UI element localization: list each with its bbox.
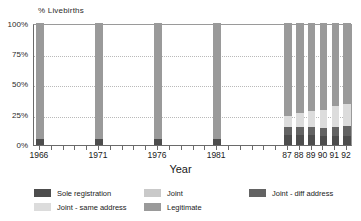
bar-segment-joint-diff-address — [284, 127, 292, 136]
bar-segment-legitimate — [296, 23, 304, 113]
legend-row-2: Joint - same address Legitimate — [34, 200, 354, 214]
bar-segment-joint-diff-address — [332, 127, 340, 137]
bar-segment-legitimate — [95, 23, 103, 139]
legend-label: Joint — [167, 189, 183, 198]
legend-item-joint-diff-address[interactable]: Joint - diff address — [249, 189, 354, 198]
bar-segment-sole-registration — [95, 139, 103, 145]
legend-item-joint[interactable]: Joint — [144, 189, 249, 198]
x-tick-label-1971: 1971 — [81, 150, 115, 160]
bar-segment-sole-registration — [332, 136, 340, 145]
x-tick-1984 — [252, 146, 253, 150]
legend-swatch-icon — [34, 203, 51, 211]
x-tick-label-1966: 1966 — [22, 150, 56, 160]
chart-legend: Sole registration Joint Joint - diff add… — [34, 186, 354, 214]
bar-1976[interactable] — [154, 23, 162, 145]
bar-segment-legitimate — [332, 23, 340, 106]
x-tick-1983 — [240, 146, 241, 150]
bar-90[interactable] — [320, 23, 328, 145]
x-axis-title: Year — [0, 163, 361, 175]
bar-88[interactable] — [296, 23, 304, 145]
bar-89[interactable] — [308, 23, 316, 145]
y-tick-label-0: 0% — [0, 141, 28, 150]
bar-92[interactable] — [343, 23, 351, 145]
x-tick-1985 — [263, 146, 264, 150]
x-tick-label-1976: 1976 — [140, 150, 174, 160]
bar-segment-legitimate — [284, 23, 292, 116]
legend-swatch-icon — [144, 189, 161, 197]
bar-segment-sole-registration — [284, 135, 292, 145]
bar-segment-joint-diff-address — [296, 127, 304, 136]
x-tick-1978 — [181, 146, 182, 150]
x-tick-label-92: 92 — [329, 150, 361, 160]
bar-1971[interactable] — [95, 23, 103, 145]
bar-segment-joint-diff-address — [320, 128, 328, 137]
bar-segment-joint-same-address — [320, 110, 328, 128]
legend-swatch-icon — [249, 189, 266, 197]
bar-segment-joint-diff-address — [343, 126, 351, 137]
bar-segment-legitimate — [320, 23, 328, 110]
legend-label: Joint - same address — [57, 203, 127, 212]
bar-segment-joint-same-address — [296, 113, 304, 126]
bar-segment-joint-same-address — [284, 116, 292, 127]
bar-segment-legitimate — [36, 23, 44, 139]
y-tick-label-25: 25% — [0, 111, 28, 120]
legend-item-legitimate[interactable]: Legitimate — [144, 203, 249, 212]
bar-segment-sole-registration — [320, 136, 328, 145]
y-tick-label-75: 75% — [0, 50, 28, 59]
y-tick-label-100: 100% — [0, 20, 28, 29]
bar-segment-sole-registration — [296, 135, 304, 145]
bar-segment-joint-diff-address — [308, 127, 316, 136]
bar-segment-joint-same-address — [332, 106, 340, 127]
legend-swatch-icon — [144, 203, 161, 211]
bar-segment-legitimate — [213, 23, 221, 139]
legend-label: Joint - diff address — [272, 189, 333, 198]
bar-segment-legitimate — [308, 23, 316, 111]
bar-segment-sole-registration — [36, 139, 44, 145]
legend-item-sole-registration[interactable]: Sole registration — [34, 189, 144, 198]
bar-segment-sole-registration — [154, 139, 162, 145]
legend-row-1: Sole registration Joint Joint - diff add… — [34, 186, 354, 200]
bar-segment-legitimate — [154, 23, 162, 139]
y-axis-title: % Livebirths — [38, 6, 84, 15]
bar-segment-sole-registration — [308, 135, 316, 145]
bar-91[interactable] — [332, 23, 340, 145]
legend-label: Sole registration — [57, 189, 111, 198]
plot-area — [33, 24, 352, 146]
bar-1966[interactable] — [36, 23, 44, 145]
legend-item-joint-same-address[interactable]: Joint - same address — [34, 203, 144, 212]
x-tick-1979 — [193, 146, 194, 150]
x-tick-1974 — [133, 146, 134, 150]
bar-1981[interactable] — [213, 23, 221, 145]
legend-label: Legitimate — [167, 203, 202, 212]
bar-87[interactable] — [284, 23, 292, 145]
stacked-bar-chart: % Livebirths 100% 75% 50% 25% 0% 1966197… — [0, 0, 361, 221]
bar-segment-sole-registration — [343, 136, 351, 145]
bar-segment-sole-registration — [213, 139, 221, 145]
x-tick-1973 — [122, 146, 123, 150]
bar-segment-legitimate — [343, 23, 351, 104]
bar-segment-joint-same-address — [308, 111, 316, 127]
x-tick-label-1981: 1981 — [199, 150, 233, 160]
y-tick-label-50: 50% — [0, 80, 28, 89]
bar-segment-joint-same-address — [343, 104, 351, 126]
x-tick-1968 — [63, 146, 64, 150]
x-tick-1969 — [74, 146, 75, 150]
legend-swatch-icon — [34, 189, 51, 197]
